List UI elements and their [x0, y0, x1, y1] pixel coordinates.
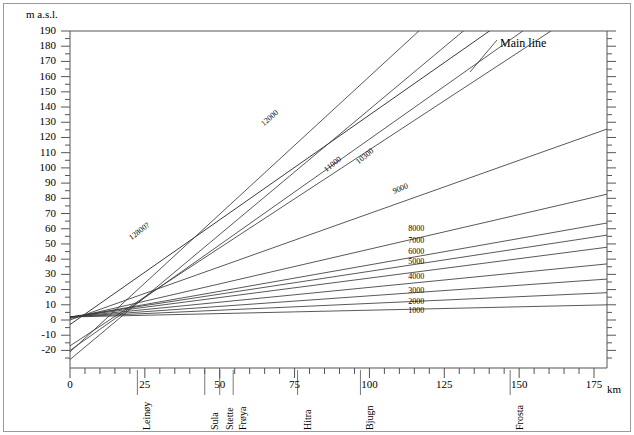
y-tick-label: 0	[22, 313, 56, 325]
curve-label-1000: 1000	[408, 306, 424, 315]
y-tick-label: 80	[22, 191, 56, 203]
x-tick-label: 125	[424, 378, 464, 390]
y-tick-label: 190	[22, 24, 56, 36]
place-label-leiny: Leinøy	[141, 402, 152, 430]
curve-label-4000: 4000	[408, 272, 424, 281]
shoreline-displacement-figure: m a.s.l. km Main line 190180170160150140…	[0, 0, 634, 435]
y-tick-label: 30	[22, 267, 56, 279]
y-tick-label: 120	[22, 130, 56, 142]
y-tick-label: 180	[22, 39, 56, 51]
y-tick-label: 90	[22, 176, 56, 188]
curve-label-3000: 3000	[408, 286, 424, 295]
place-label-sula: Sula	[209, 412, 220, 430]
x-tick-label: 75	[275, 378, 315, 390]
place-label-hitra: Hitra	[302, 409, 313, 430]
y-tick-label: 100	[22, 161, 56, 173]
y-tick-label: -20	[22, 343, 56, 355]
y-tick-label: 50	[22, 237, 56, 249]
place-label-stette: Stette	[224, 407, 235, 430]
y-tick-label: 60	[22, 222, 56, 234]
place-label-frosta: Frosta	[514, 405, 525, 430]
y-tick-label: 110	[22, 146, 56, 158]
curve-label-7000: 7000	[408, 236, 424, 245]
x-tick-label: 150	[499, 378, 539, 390]
y-tick-label: 10	[22, 298, 56, 310]
y-tick-label: 140	[22, 100, 56, 112]
x-tick-label: 0	[50, 378, 90, 390]
plot-canvas	[0, 0, 634, 435]
y-tick-label: 70	[22, 207, 56, 219]
x-tick-label: 100	[349, 378, 389, 390]
y-tick-label: 150	[22, 85, 56, 97]
x-tick-label: 175	[574, 378, 614, 390]
curve-label-8000: 8000	[408, 224, 424, 233]
curve-label-5000: 5000	[408, 257, 424, 266]
y-tick-label: 130	[22, 115, 56, 127]
x-tick-label: 50	[200, 378, 240, 390]
y-tick-label: 160	[22, 70, 56, 82]
curve-label-6000: 6000	[408, 247, 424, 256]
y-tick-label: 40	[22, 252, 56, 264]
curve-label-2000: 2000	[408, 297, 424, 306]
y-tick-label: 20	[22, 283, 56, 295]
x-tick-label: 25	[125, 378, 165, 390]
y-tick-label: -10	[22, 328, 56, 340]
y-tick-label: 170	[22, 54, 56, 66]
place-label-frya: Frøya	[237, 407, 248, 430]
place-label-bjugn: Bjugn	[364, 406, 375, 430]
